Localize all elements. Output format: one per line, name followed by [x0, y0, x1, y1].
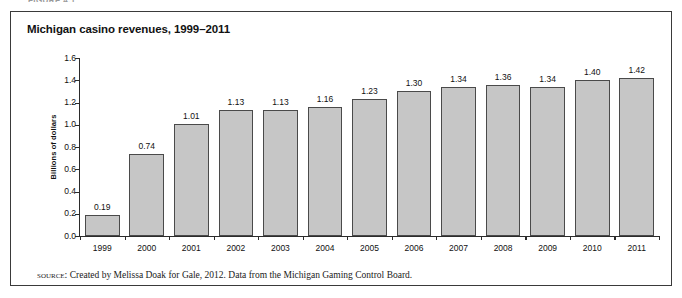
bar: [263, 110, 298, 236]
bar-group: 1.302006: [392, 58, 437, 236]
x-axis-tick-label: 2008: [481, 243, 526, 253]
source-note: Source: Created by Melissa Doak for Gale…: [37, 269, 412, 280]
bar-group: 0.191999: [80, 58, 125, 236]
bar: [441, 87, 476, 236]
bar: [575, 80, 610, 236]
bar-group: 1.362008: [481, 58, 526, 236]
bar: [397, 91, 432, 236]
source-label: Source:: [37, 269, 67, 280]
bar: [308, 107, 343, 236]
bar-group: 1.232005: [347, 58, 392, 236]
bar-value-label: 0.74: [125, 141, 170, 151]
bar-group: 1.422011: [614, 58, 659, 236]
bar: [219, 110, 254, 236]
x-axis-tick-mark: [392, 236, 393, 240]
bar-group: 1.132002: [214, 58, 259, 236]
chart-plot-area: Billions of dollars 1.61.41.21.00.80.60.…: [59, 58, 659, 236]
x-axis-tick-mark: [303, 236, 304, 240]
x-axis-tick-mark: [80, 236, 81, 240]
x-axis-tick-mark: [481, 236, 482, 240]
x-axis-tick-mark: [659, 236, 660, 240]
x-axis-tick-label: 2010: [570, 243, 615, 253]
bar: [174, 124, 209, 236]
x-axis-tick-label: 2006: [392, 243, 437, 253]
x-axis-tick-label: 2001: [169, 243, 214, 253]
x-axis-tick-label: 2007: [436, 243, 481, 253]
bar-value-label: 1.40: [570, 67, 615, 77]
bar-value-label: 1.16: [303, 94, 348, 104]
bar-value-label: 1.13: [214, 97, 259, 107]
x-axis-tick-mark: [614, 236, 615, 240]
bar-group: 1.162004: [303, 58, 348, 236]
x-axis-tick-mark: [525, 236, 526, 240]
bar-value-label: 1.34: [436, 74, 481, 84]
x-axis-tick-mark: [125, 236, 126, 240]
x-axis-tick-label: 2003: [258, 243, 303, 253]
x-axis-tick-label: 1999: [80, 243, 125, 253]
x-axis-tick-mark: [570, 236, 571, 240]
bar-value-label: 0.19: [80, 202, 125, 212]
bar-value-label: 1.01: [169, 111, 214, 121]
x-axis-line: [79, 236, 659, 237]
x-axis-tick-label: 2004: [303, 243, 348, 253]
x-axis-tick-mark: [436, 236, 437, 240]
bar: [352, 99, 387, 236]
bar-group: 1.012001: [169, 58, 214, 236]
x-axis-tick-mark: [258, 236, 259, 240]
bar: [85, 215, 120, 236]
bar-group: 0.742000: [125, 58, 170, 236]
y-axis-title: Billions of dollars: [49, 115, 58, 180]
bar: [486, 85, 521, 236]
source-text: Created by Melissa Doak for Gale, 2012. …: [67, 270, 412, 280]
figure-number-caption: FIGURE 4.1: [28, 0, 76, 2]
x-axis-tick-label: 2009: [525, 243, 570, 253]
x-axis-tick-mark: [347, 236, 348, 240]
x-axis-tick-label: 2000: [125, 243, 170, 253]
bar: [530, 87, 565, 236]
bar-value-label: 1.23: [347, 86, 392, 96]
bar: [129, 154, 164, 236]
bar-series: 0.1919990.7420001.0120011.1320021.132003…: [80, 58, 659, 236]
bar-value-label: 1.30: [392, 78, 437, 88]
x-axis-tick-mark: [169, 236, 170, 240]
x-axis-tick-label: 2011: [614, 243, 659, 253]
x-axis-tick-mark: [214, 236, 215, 240]
x-axis-tick-label: 2005: [347, 243, 392, 253]
bar-value-label: 1.42: [614, 65, 659, 75]
figure-frame: Michigan casino revenues, 1999–2011 Bill…: [10, 11, 672, 286]
bar: [619, 78, 654, 236]
page-title: Michigan casino revenues, 1999–2011: [27, 23, 230, 35]
x-axis-tick-label: 2002: [214, 243, 259, 253]
bar-group: 1.402010: [570, 58, 615, 236]
bar-value-label: 1.13: [258, 97, 303, 107]
bar-group: 1.132003: [258, 58, 303, 236]
bar-value-label: 1.34: [525, 74, 570, 84]
bar-value-label: 1.36: [481, 72, 526, 82]
bar-group: 1.342007: [436, 58, 481, 236]
bar-group: 1.342009: [525, 58, 570, 236]
